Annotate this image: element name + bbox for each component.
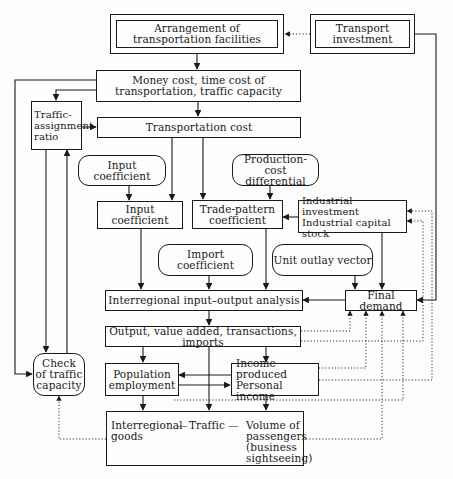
node-label: Traffic- assignment ratio: [34, 109, 93, 142]
unit-outlay-vector-node: Unit outlay vector: [272, 244, 373, 276]
dash-separator: —: [177, 420, 188, 431]
check-of-traffic-capacity-node: Check of traffic capacity: [33, 353, 85, 396]
input-coefficient-node: Input coefficient: [97, 201, 183, 229]
node-label: Trade-pattern coefficient: [200, 204, 275, 226]
transportation-cost-node: Transportation cost: [97, 117, 301, 138]
transport-investment-node: Transport investment: [315, 20, 410, 48]
population-employment-node: Population employment: [105, 363, 179, 396]
node-label: Transport investment: [332, 23, 392, 45]
interregional-input-output-analysis-node: Interregional input–output analysis: [105, 290, 303, 311]
node-label: Transportation cost: [146, 122, 253, 133]
node-label: Import coefficient: [159, 249, 252, 271]
node-label: Income produced Personal income: [236, 358, 318, 402]
node-label: Output, value added, transactions, impor…: [106, 326, 300, 348]
node-label: Unit outlay vector: [273, 255, 371, 266]
arrangement-of-transportation-facilities-node: Arrangement of transportation facilities: [116, 20, 278, 48]
passenger-volume-label: Volume of passengers (business sightseei…: [246, 420, 312, 464]
input-coefficient-exogenous-node: Input coefficient: [78, 155, 166, 186]
industrial-investment-node: Industrial investment Industrial capital…: [298, 200, 407, 233]
node-label: Arrangement of transportation facilities: [133, 23, 261, 45]
node-label: Population employment: [109, 369, 176, 391]
node-label: Money cost, time cost of transportation,…: [115, 75, 282, 97]
node-label: Check of traffic capacity: [35, 358, 82, 391]
traffic-volume-node: Interregional goods — Traffic — Volume o…: [106, 411, 304, 466]
node-label: Industrial investment Industrial capital…: [302, 195, 406, 239]
production-cost-differential-node: Production-cost differential: [232, 154, 319, 186]
flow-diagram: Arrangement of transportation facilities…: [0, 0, 453, 479]
dash-separator: —: [228, 420, 239, 431]
trade-pattern-coefficient-node: Trade-pattern coefficient: [192, 200, 283, 229]
node-label: Interregional input–output analysis: [108, 295, 299, 306]
interregional-goods-label: Interregional goods: [111, 420, 183, 442]
money-cost-node: Money cost, time cost of transportation,…: [96, 70, 301, 102]
node-label: Input coefficient: [79, 160, 165, 182]
import-coefficient-node: Import coefficient: [158, 244, 253, 276]
output-value-added-node: Output, value added, transactions, impor…: [105, 326, 301, 347]
traffic-assignment-ratio-node: Traffic- assignment ratio: [31, 101, 82, 150]
node-label: Final demand: [346, 290, 416, 312]
traffic-label: Traffic: [189, 420, 225, 431]
node-label: Production-cost differential: [233, 154, 318, 187]
final-demand-node: Final demand: [345, 290, 417, 311]
node-label: Input coefficient: [98, 204, 182, 226]
income-node: Income produced Personal income: [231, 363, 319, 396]
